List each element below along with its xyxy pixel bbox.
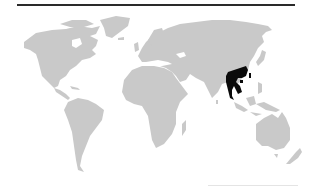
tasmania bbox=[274, 154, 278, 158]
caribbean bbox=[70, 86, 80, 90]
greenland bbox=[100, 16, 130, 38]
new-zealand bbox=[286, 148, 302, 164]
maritime-southeast-asia bbox=[234, 82, 280, 116]
british-isles bbox=[134, 42, 139, 52]
arctic-islands bbox=[60, 20, 94, 27]
world-map bbox=[0, 0, 311, 188]
south-america bbox=[64, 98, 104, 172]
madagascar bbox=[182, 120, 186, 136]
highlighted-island-hainan bbox=[240, 80, 243, 83]
sri-lanka bbox=[216, 100, 218, 104]
central-america bbox=[54, 88, 70, 100]
bottom-rule bbox=[208, 185, 298, 186]
australia bbox=[256, 112, 290, 150]
north-america bbox=[24, 26, 100, 88]
japan bbox=[256, 50, 266, 66]
iceland bbox=[118, 37, 124, 40]
highlighted-island bbox=[249, 73, 251, 78]
